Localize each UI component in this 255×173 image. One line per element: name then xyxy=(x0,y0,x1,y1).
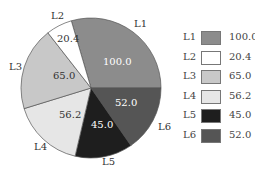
legend-value: 56.2 xyxy=(229,90,251,101)
category-label-l1: L1 xyxy=(134,18,147,29)
category-label-l5: L5 xyxy=(102,156,115,167)
category-label-l3: L3 xyxy=(9,61,22,72)
legend-label: L6 xyxy=(183,129,196,140)
legend-value: 65.0 xyxy=(229,70,251,81)
category-label-l2: L2 xyxy=(51,10,64,21)
value-label-l6: 52.0 xyxy=(115,97,137,108)
category-label-l6: L6 xyxy=(158,121,171,132)
pie-chart: 100.0 20.4 65.0 56.2 45.0 52.0 L1 L2 L3 … xyxy=(0,0,180,173)
legend-item-l3: L3 65.0 xyxy=(183,68,255,88)
legend-label: L5 xyxy=(183,109,196,120)
legend-label: L4 xyxy=(183,90,196,101)
legend-value: 45.0 xyxy=(229,109,251,120)
legend-item-l1: L1 100.0 xyxy=(183,29,255,49)
value-label-l5: 45.0 xyxy=(91,119,113,130)
category-label-l4: L4 xyxy=(34,141,47,152)
value-label-l1: 100.0 xyxy=(103,56,132,67)
legend-swatch xyxy=(201,129,221,143)
legend-swatch xyxy=(201,31,221,45)
legend-value: 20.4 xyxy=(229,51,251,62)
pie-slices xyxy=(21,18,161,158)
legend-item-l2: L2 20.4 xyxy=(183,49,255,69)
legend-item-l5: L5 45.0 xyxy=(183,107,255,127)
legend-value: 100.0 xyxy=(229,31,255,42)
legend-swatch xyxy=(201,70,221,84)
legend-item-l6: L6 52.0 xyxy=(183,127,255,147)
legend: L1 100.0 L2 20.4 L3 65.0 L4 56.2 L5 45.0… xyxy=(183,29,255,146)
legend-label: L1 xyxy=(183,31,196,42)
legend-value: 52.0 xyxy=(229,129,251,140)
legend-label: L3 xyxy=(183,70,196,81)
value-label-l4: 56.2 xyxy=(59,109,81,120)
legend-label: L2 xyxy=(183,51,196,62)
value-label-l3: 65.0 xyxy=(53,70,75,81)
legend-swatch xyxy=(201,90,221,104)
legend-item-l4: L4 56.2 xyxy=(183,88,255,108)
value-label-l2: 20.4 xyxy=(57,33,79,44)
legend-swatch xyxy=(201,51,221,65)
legend-swatch xyxy=(201,109,221,123)
